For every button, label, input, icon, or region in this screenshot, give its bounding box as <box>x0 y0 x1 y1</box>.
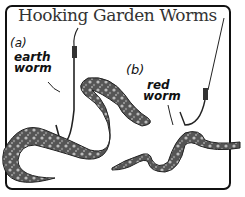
hook-eye-b <box>203 88 208 100</box>
panel-a-letter: (a) <box>10 38 27 49</box>
red-worm <box>112 132 240 172</box>
fishing-line-b <box>208 18 224 90</box>
illustration-drawing <box>0 0 245 197</box>
hook-eye-a <box>72 46 77 58</box>
hook-a <box>56 58 74 142</box>
panel-b-label-line2: worm <box>143 91 181 102</box>
fishing-line-a <box>74 28 78 46</box>
hook-b <box>180 100 205 125</box>
panel-a-label-line2: worm <box>14 63 52 74</box>
arrow-earth-worm <box>48 82 60 92</box>
arrow-red-worm <box>168 105 173 125</box>
panel-b-letter: (b) <box>126 64 144 75</box>
